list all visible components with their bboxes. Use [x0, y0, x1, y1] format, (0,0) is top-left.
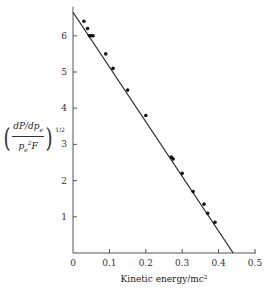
data-point [202, 202, 206, 206]
data-point [91, 34, 95, 38]
y-tick-label: 6 [61, 31, 67, 41]
y-label-numerator: dP/dpe [12, 120, 44, 137]
fit-line [73, 12, 233, 253]
left-paren: ( [4, 125, 11, 151]
x-tick-label: 0.2 [139, 258, 153, 268]
y-tick-label: 5 [61, 67, 67, 77]
y-label-exponent: 1/2 [55, 126, 65, 133]
axes [73, 7, 256, 253]
data-point [180, 172, 184, 176]
data-point [171, 157, 175, 161]
right-paren: ) [46, 125, 53, 151]
data-point [191, 190, 195, 194]
data-point [86, 27, 90, 31]
data-point [111, 67, 115, 71]
y-axis-label: ( dP/dpe pe2F ) 1/2 [2, 120, 72, 156]
data-points [82, 20, 217, 225]
x-axis-label: Kinetic energy/mc² [121, 274, 208, 284]
y-tick-label: 2 [61, 176, 67, 186]
y-tick-label: 1 [61, 212, 67, 222]
y-tick-label: 4 [61, 103, 67, 113]
x-tick-label: 0.3 [175, 258, 190, 268]
data-point [144, 114, 148, 118]
x-tick-label: 0.1 [102, 258, 116, 268]
data-point [206, 211, 210, 215]
x-tick-label: 0.4 [211, 258, 226, 268]
data-point [104, 52, 108, 56]
x-tick-label: 0.5 [248, 258, 263, 268]
x-tick-label: 0 [70, 258, 76, 268]
data-point [126, 88, 130, 92]
data-point [213, 220, 217, 224]
x-axis-ticks: 00.10.20.30.40.5 [70, 249, 262, 268]
y-label-denominator: pe2F [18, 137, 37, 156]
data-point [82, 20, 86, 24]
